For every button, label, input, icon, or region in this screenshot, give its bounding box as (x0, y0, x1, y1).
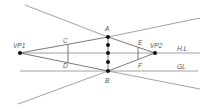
point-b (106, 69, 110, 73)
vp2-label: VP2 (150, 42, 163, 49)
label-e: E (138, 39, 143, 46)
a-to-vp2-line (108, 37, 155, 53)
b-to-vp2-line (108, 53, 155, 71)
horizon-line-label: H.L (177, 45, 188, 52)
label-c: C (63, 37, 68, 44)
division-point-3 (106, 60, 110, 64)
lower-left-ray (18, 71, 108, 104)
perspective-diagram: VP1 VP2 A B C D E F H.L GL (0, 0, 215, 111)
vp1-label: VP1 (13, 42, 26, 49)
lower-right-ray (108, 71, 200, 89)
upper-left-ray (25, 5, 108, 37)
point-a (106, 35, 110, 39)
label-b: B (105, 77, 110, 84)
label-f: F (138, 62, 143, 69)
division-point-2 (106, 51, 110, 55)
label-d: D (63, 62, 68, 69)
division-point-1 (106, 43, 110, 47)
vp1-point (18, 51, 22, 55)
label-a: A (104, 25, 109, 32)
ground-line-label: GL (177, 63, 186, 70)
vp2-point (153, 51, 157, 55)
upper-right-ray (108, 18, 200, 37)
